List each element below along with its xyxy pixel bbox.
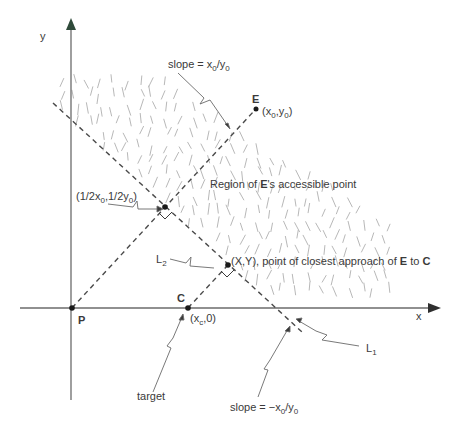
- hatch-mark: [166, 102, 167, 111]
- hatch-mark: [356, 206, 360, 213]
- hatch-mark: [387, 247, 390, 254]
- hatch-mark: [330, 218, 334, 228]
- point-E-label: E: [252, 93, 259, 105]
- hatch-mark: [370, 289, 372, 298]
- hatch-mark: [168, 127, 172, 134]
- hatch-mark: [72, 90, 74, 98]
- hatch-mark: [103, 143, 104, 151]
- hatch-mark: [271, 286, 274, 295]
- hatch-mark: [220, 157, 222, 164]
- hatch-mark: [111, 75, 112, 82]
- hatch-mark: [207, 131, 209, 140]
- hatch-mark: [245, 246, 249, 254]
- hatch-mark: [125, 81, 128, 90]
- hatch-mark: [111, 131, 113, 139]
- leader-midpoint-arrow-icon: [157, 206, 163, 212]
- hatch-mark: [279, 283, 280, 290]
- hatch-mark: [267, 270, 272, 279]
- hatch-mark: [91, 87, 93, 96]
- hatch-mark: [298, 208, 299, 216]
- hatch-mark: [364, 220, 365, 230]
- hatch-mark: [166, 193, 170, 203]
- hatch-mark: [297, 230, 298, 238]
- hatch-mark: [376, 219, 379, 226]
- hatch-mark: [123, 133, 127, 142]
- hatch-mark: [178, 196, 179, 206]
- hatch-mark: [122, 143, 126, 151]
- hatch-mark: [350, 271, 351, 278]
- hatch-mark: [179, 147, 183, 153]
- point-P-label: P: [78, 314, 85, 326]
- leader-slope-pos-arrow-icon: [225, 123, 230, 129]
- hatch-mark: [166, 178, 170, 187]
- hatch-mark: [97, 114, 99, 123]
- hatch-mark: [333, 287, 337, 296]
- y-axis-label: y: [40, 30, 46, 42]
- hatch-mark: [371, 233, 374, 241]
- point-C: [185, 305, 191, 311]
- leader-lines: [108, 73, 359, 397]
- hatch-mark: [110, 108, 112, 116]
- hatch-mark: [193, 102, 195, 110]
- leader-L1: [299, 321, 359, 346]
- hatch-mark: [305, 199, 307, 206]
- hatch-mark: [240, 223, 242, 230]
- slope-negative-label: slope = −x0/y0: [230, 401, 299, 416]
- hatch-mark: [161, 91, 165, 99]
- point-closest-approach: [225, 262, 231, 268]
- right-angle-markers: [159, 212, 234, 277]
- hatch-mark: [257, 158, 261, 168]
- hatch-mark: [322, 276, 326, 283]
- hatch-mark: [374, 271, 378, 281]
- hatch-mark: [86, 103, 88, 114]
- hatch-mark: [208, 203, 209, 214]
- hatch-mark: [331, 275, 333, 285]
- hatch-mark: [201, 218, 203, 227]
- line-L2-C-to-XY: [188, 266, 227, 308]
- hatch-mark: [153, 177, 157, 187]
- hatch-mark: [91, 116, 93, 125]
- hatch-mark: [162, 156, 166, 165]
- hatch-mark: [317, 192, 319, 202]
- hatch-mark: [229, 133, 232, 141]
- hatch-mark: [60, 101, 62, 110]
- hatch-mark: [174, 103, 176, 111]
- leader-slope-pos: [178, 73, 228, 126]
- point-C-label: C: [177, 292, 185, 304]
- hatch-mark: [181, 206, 184, 212]
- hatch-mark: [240, 132, 244, 141]
- hatch-mark: [141, 90, 144, 97]
- hatch-mark: [137, 139, 139, 147]
- hatch-mark: [216, 233, 220, 241]
- hatch-mark: [294, 286, 295, 295]
- hatch-mark: [226, 246, 228, 255]
- hatch-mark: [283, 161, 286, 168]
- point-E-coords: (x0,y0): [262, 105, 292, 120]
- leader-slope-neg: [258, 329, 288, 397]
- hatch-mark: [122, 88, 124, 97]
- hatch-mark: [323, 231, 326, 238]
- point-P: [69, 305, 75, 311]
- hatch-mark: [332, 246, 336, 253]
- hatch-mark: [217, 203, 218, 213]
- hatch-mark: [256, 144, 258, 155]
- hatch-mark: [316, 223, 321, 231]
- hatch-mark: [140, 99, 143, 109]
- hatch-mark: [150, 146, 152, 155]
- hatch-mark: [284, 221, 288, 229]
- x-axis-label: x: [416, 310, 422, 322]
- hatch-mark: [283, 274, 284, 283]
- hatch-mark: [153, 102, 156, 109]
- hatch-mark: [84, 80, 88, 88]
- hatch-mark: [140, 126, 144, 133]
- axes: y x: [20, 18, 441, 400]
- hatch-mark: [98, 79, 101, 88]
- hatch-mark: [101, 108, 102, 117]
- hatch-mark: [285, 236, 287, 247]
- hatch-mark: [382, 236, 385, 244]
- hatch-mark: [267, 198, 269, 208]
- hatch-mark: [303, 235, 308, 245]
- hatch-mark: [295, 199, 296, 206]
- hatch-mark: [226, 157, 230, 166]
- hatch-mark: [215, 132, 217, 141]
